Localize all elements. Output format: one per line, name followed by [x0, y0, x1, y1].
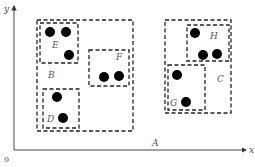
data-point-e [45, 27, 55, 37]
data-point-f [99, 72, 109, 82]
data-point-h [212, 49, 222, 59]
data-point-h [198, 50, 208, 60]
x-axis-label: x [249, 145, 254, 155]
data-point-g [172, 70, 182, 80]
cluster-diagram: y x 0 ABCDEFGH [0, 0, 255, 167]
region-label-e: E [51, 40, 59, 50]
region-label-a: A [151, 138, 159, 148]
region-label-c: C [217, 74, 224, 84]
data-point-e [61, 27, 71, 37]
y-axis-label: y [3, 4, 10, 14]
data-point-f [114, 71, 124, 81]
data-point-e [64, 50, 74, 60]
region-label-f: F [115, 52, 123, 62]
region-label-g: G [170, 98, 177, 108]
data-point-d [52, 92, 62, 102]
region-label-d: D [46, 114, 54, 124]
data-point-h [190, 28, 200, 38]
region-label-b: B [47, 70, 55, 80]
region-label-h: H [209, 31, 218, 41]
region-box-f [89, 50, 129, 86]
origin-label: 0 [4, 155, 9, 164]
data-point-g [181, 97, 191, 107]
data-point-d [58, 113, 68, 123]
